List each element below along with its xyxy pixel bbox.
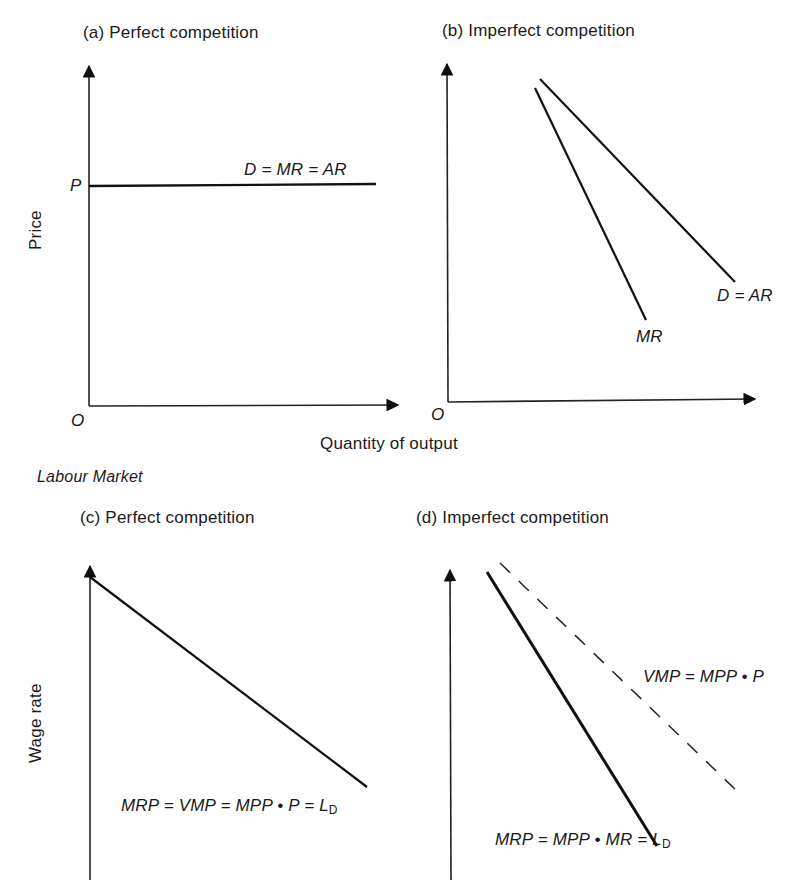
panel-c-curve-label-subscript: D	[329, 803, 338, 817]
panel-d-mrp-label-subscript: D	[662, 837, 671, 851]
x-axis-label-quantity-of-output: Quantity of output	[320, 434, 458, 454]
panel-d-mrp-curve	[487, 572, 657, 846]
panel-c-labour-demand-curve	[90, 577, 367, 787]
panel-c-curve-label: MRP = VMP = MPP • P = LD	[121, 796, 338, 817]
panel-b-axes	[447, 64, 755, 402]
panel-b-mr-label: MR	[636, 327, 663, 347]
panel-a-axes	[89, 66, 398, 406]
panel-b-x-axis	[448, 399, 755, 402]
panel-d-vmp-label: VMP = MPP • P	[643, 667, 764, 687]
panel-d-mrp-label: MRP = MPP • MR = LD	[495, 830, 671, 851]
panel-b-ar-curve	[540, 79, 735, 282]
panel-b-origin-label: O	[431, 405, 444, 425]
panel-a-x-axis	[89, 405, 398, 406]
panel-a-demand-curve	[89, 184, 376, 186]
panel-c-title: (c) Perfect competition	[80, 508, 255, 528]
panel-a-price-mark: P	[70, 176, 82, 196]
panel-a-title: (a) Perfect competition	[83, 23, 259, 43]
panel-a-demand-label: D = MR = AR	[244, 160, 347, 180]
panel-d-axes	[450, 570, 451, 880]
panel-b-mr-curve	[535, 88, 646, 320]
panel-c-curve-label-main: MRP = VMP = MPP • P = L	[121, 796, 329, 815]
panel-d-y-axis	[450, 570, 451, 880]
panel-b-title: (b) Imperfect competition	[442, 21, 635, 41]
panel-b-y-axis	[447, 64, 448, 402]
panel-d-title: (d) Imperfect competition	[416, 508, 609, 528]
panel-c-y-axis-label: Wage rate	[26, 683, 46, 763]
panel-a-origin-label: O	[71, 411, 84, 431]
panel-a-y-axis-label: Price	[26, 210, 46, 250]
labour-market-heading: Labour Market	[37, 468, 143, 486]
panel-d-mrp-label-main: MRP = MPP • MR = L	[495, 830, 662, 849]
panel-b-ar-label: D = AR	[717, 286, 773, 306]
